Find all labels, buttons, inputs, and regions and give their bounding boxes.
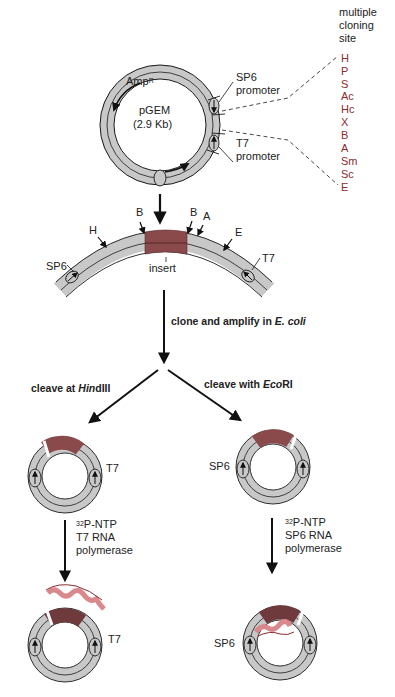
site-b-left: B bbox=[136, 206, 143, 219]
site-a: A bbox=[203, 210, 210, 223]
right-final-plasmid bbox=[243, 606, 317, 680]
right-reagent: 32P-NTP bbox=[285, 516, 326, 529]
t7-promoter-sub: promoter bbox=[236, 150, 280, 163]
origin-icon bbox=[154, 170, 166, 186]
cleave-hindiii-label: cleave at HindIII bbox=[31, 382, 110, 395]
insert-label: insert bbox=[149, 262, 176, 275]
sp6-promoter-sub: promoter bbox=[236, 84, 280, 97]
clone-step-label: clone and amplify in E. coli bbox=[171, 315, 306, 328]
right-polymerase-1: SP6 RNA bbox=[285, 529, 332, 542]
left-final-plasmid bbox=[28, 585, 104, 682]
cleave-ecori-label: cleave with EcoRI bbox=[204, 378, 293, 391]
mcs-site-b: B bbox=[341, 129, 348, 142]
mcs-site-x: X bbox=[341, 116, 348, 129]
sp6-promoter-label: SP6 bbox=[236, 71, 257, 84]
mcs-site-e: E bbox=[341, 181, 348, 194]
left-polymerase-2: polymerase bbox=[76, 544, 133, 557]
mcs-site-hc: Hc bbox=[341, 103, 354, 116]
mcs-site-a: A bbox=[341, 142, 348, 155]
right-polymerase-2: polymerase bbox=[285, 542, 342, 555]
site-h: H bbox=[89, 224, 97, 237]
left-reagent: 32P-NTP bbox=[76, 518, 117, 531]
plasmid-size: (2.9 Kb) bbox=[133, 118, 172, 131]
linear-sp6-label: SP6 bbox=[46, 260, 67, 273]
right-plasmid bbox=[236, 430, 310, 504]
mcs-title-1: multiple bbox=[339, 6, 377, 19]
mcs-site-sm: Sm bbox=[341, 155, 358, 168]
mcs-site-h: H bbox=[341, 52, 349, 65]
mcs-title-3: site bbox=[339, 32, 356, 45]
insert-block bbox=[145, 230, 187, 254]
t7-promoter-label: T7 bbox=[236, 137, 249, 150]
left-polymerase-1: T7 RNA bbox=[76, 531, 115, 544]
left-plasmid bbox=[28, 439, 102, 513]
site-b-right: B bbox=[190, 206, 197, 219]
mcs-title-2: cloning bbox=[339, 19, 374, 32]
right-final-sp6-label: SP6 bbox=[214, 637, 235, 650]
linear-t7-label: T7 bbox=[262, 252, 275, 265]
mcs-site-ac: Ac bbox=[341, 90, 354, 103]
ampr-label: AmpR bbox=[126, 75, 154, 88]
left-t7-label: T7 bbox=[106, 462, 119, 475]
mcs-site-sc: Sc bbox=[341, 168, 354, 181]
site-e: E bbox=[235, 226, 242, 239]
plasmid-name: pGEM bbox=[139, 104, 170, 117]
mcs-site-p: P bbox=[341, 65, 348, 78]
mcs-site-s: S bbox=[341, 78, 348, 91]
left-final-t7-label: T7 bbox=[108, 633, 121, 646]
arrow-left-branch-icon bbox=[90, 370, 158, 422]
right-sp6-label: SP6 bbox=[209, 460, 230, 473]
rna-transcript-left bbox=[48, 590, 104, 609]
pgem-cloning-diagram bbox=[0, 0, 395, 697]
